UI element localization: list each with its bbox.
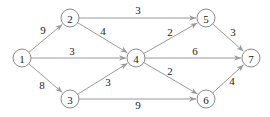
edge-1-3 <box>29 64 63 93</box>
edge-weight-5-7: 3 <box>230 26 236 38</box>
node-4: 4 <box>127 49 145 67</box>
edge-weight-3-4: 3 <box>105 76 111 88</box>
edge-weight-4-7: 6 <box>192 45 198 57</box>
edge-weight-4-5: 2 <box>167 26 173 38</box>
node-5: 5 <box>197 9 215 27</box>
node-label: 7 <box>248 53 254 65</box>
edge-weight-1-4: 3 <box>69 45 75 57</box>
node-2: 2 <box>61 9 79 27</box>
node-label: 2 <box>67 13 73 25</box>
edge-weight-6-7: 4 <box>229 75 235 87</box>
edge-weight-2-4: 4 <box>100 25 106 37</box>
node-label: 3 <box>67 94 73 106</box>
edge-6-7 <box>213 65 244 93</box>
node-label: 1 <box>19 53 25 65</box>
node-1: 1 <box>13 49 31 67</box>
node-6: 6 <box>197 90 215 108</box>
node-3: 3 <box>61 90 79 108</box>
graph-diagram: 938343926234 1234567 <box>0 0 270 117</box>
node-label: 5 <box>203 13 209 25</box>
edge-3-4 <box>78 63 128 94</box>
edge-5-7 <box>213 24 244 51</box>
node-label: 4 <box>133 53 139 65</box>
edge-weight-3-6: 9 <box>135 99 141 111</box>
edge-weight-1-2: 9 <box>40 24 46 36</box>
edge-weight-4-6: 2 <box>167 65 173 77</box>
edge-weight-2-5: 3 <box>135 4 141 16</box>
node-label: 6 <box>203 94 209 106</box>
node-7: 7 <box>242 49 260 67</box>
edge-weight-1-3: 8 <box>39 79 45 91</box>
